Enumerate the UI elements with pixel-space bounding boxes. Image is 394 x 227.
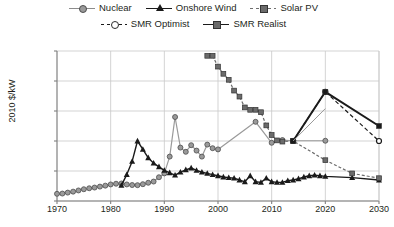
series-marker-nuclear	[178, 145, 183, 150]
series-marker-nuclear	[189, 143, 194, 148]
series-marker-onshore-wind	[156, 164, 162, 170]
series-marker-nuclear	[146, 180, 151, 185]
series-marker-solar-pv	[269, 133, 274, 138]
series-marker-solar-pv	[232, 88, 237, 93]
series-marker-solar-pv	[264, 123, 269, 128]
series-marker-nuclear	[253, 119, 258, 124]
series-marker-nuclear	[194, 148, 199, 153]
series-marker-solar-pv	[242, 105, 247, 110]
series-line-smr-connector	[293, 109, 325, 141]
series-marker-nuclear	[108, 182, 113, 187]
series-line-nuclear	[57, 117, 325, 194]
series-marker-nuclear	[183, 149, 188, 154]
series-marker-onshore-wind	[247, 173, 253, 179]
series-marker-nuclear	[205, 142, 210, 147]
series-marker-nuclear	[76, 188, 81, 193]
series-marker-nuclear	[124, 182, 129, 187]
series-marker-nuclear	[81, 187, 86, 192]
series-line-smr-realist	[293, 92, 379, 141]
series-marker-nuclear	[210, 146, 215, 151]
series-marker-solar-pv	[275, 138, 280, 143]
series-marker-solar-pv	[216, 64, 221, 69]
series-marker-smr-optimist	[377, 139, 382, 144]
series-marker-nuclear	[199, 154, 204, 159]
series-marker-solar-pv	[377, 176, 382, 181]
series-marker-nuclear	[135, 183, 140, 188]
series-marker-nuclear	[103, 183, 108, 188]
series-marker-nuclear	[156, 175, 161, 180]
series-marker-nuclear	[173, 115, 178, 120]
series-marker-solar-pv	[323, 158, 328, 163]
series-marker-solar-pv	[259, 110, 264, 115]
series-marker-onshore-wind	[188, 165, 194, 171]
series-marker-nuclear	[216, 147, 221, 152]
series-marker-nuclear	[71, 189, 76, 194]
series-marker-nuclear	[114, 181, 119, 186]
series-marker-nuclear	[97, 184, 102, 189]
series-marker-nuclear	[87, 186, 92, 191]
series-marker-nuclear	[140, 182, 145, 187]
series-marker-nuclear	[65, 190, 70, 195]
series-marker-onshore-wind	[129, 158, 135, 164]
series-marker-nuclear	[323, 138, 328, 143]
series-marker-onshore-wind	[263, 175, 269, 181]
series-marker-solar-pv	[226, 77, 231, 82]
series-line-solar-pv	[207, 56, 379, 178]
series-marker-smr-realist	[377, 124, 382, 129]
series-marker-solar-pv	[253, 107, 258, 112]
series-marker-solar-pv	[350, 171, 355, 176]
series-marker-solar-pv	[210, 53, 215, 58]
series-marker-nuclear	[60, 191, 65, 196]
series-marker-nuclear	[130, 183, 135, 188]
series-marker-onshore-wind	[124, 171, 130, 177]
series-marker-solar-pv	[237, 94, 242, 99]
series-marker-solar-pv	[248, 107, 253, 112]
series-marker-solar-pv	[280, 139, 285, 144]
series-marker-nuclear	[269, 140, 274, 145]
series-marker-nuclear	[167, 154, 172, 159]
series-marker-nuclear	[92, 185, 97, 190]
series-marker-nuclear	[151, 179, 156, 184]
series-marker-solar-pv	[221, 71, 226, 76]
series-marker-smr-realist	[323, 89, 328, 94]
series-marker-nuclear	[55, 191, 60, 196]
series-marker-solar-pv	[205, 53, 210, 58]
